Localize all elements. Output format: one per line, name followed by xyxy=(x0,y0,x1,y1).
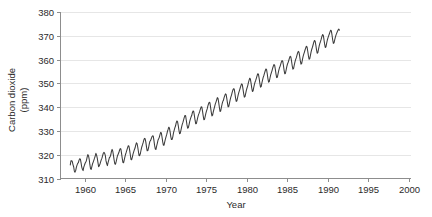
x-tick-label: 1970 xyxy=(156,184,177,195)
y-tick-label: 330 xyxy=(38,126,54,137)
y-tick-label: 320 xyxy=(38,150,54,161)
y-axis-title-line2: (ppm) xyxy=(18,88,29,113)
y-axis-title-line1: Carbon dioxide xyxy=(6,68,17,132)
y-axis-ticks xyxy=(57,13,61,180)
x-axis-title: Year xyxy=(226,199,245,210)
x-axis-ticks xyxy=(86,179,410,183)
x-tick-label: 1985 xyxy=(277,184,298,195)
co2-line-chart: 310320330340350360370380 196019651970197… xyxy=(0,0,432,217)
x-tick-label: 1990 xyxy=(318,184,339,195)
gridlines xyxy=(61,13,412,156)
y-tick-label: 360 xyxy=(38,55,54,66)
x-axis-tick-labels: 196019651970197519801985199019952000 xyxy=(75,184,420,195)
y-tick-label: 380 xyxy=(38,7,54,18)
y-tick-label: 370 xyxy=(38,31,54,42)
y-tick-label: 340 xyxy=(38,102,54,113)
x-tick-label: 1960 xyxy=(75,184,96,195)
co2-chart-figure: 310320330340350360370380 196019651970197… xyxy=(0,0,432,217)
x-tick-label: 1980 xyxy=(237,184,258,195)
co2-series-line xyxy=(70,29,339,172)
y-tick-label: 310 xyxy=(38,174,54,185)
y-tick-label: 350 xyxy=(38,78,54,89)
x-tick-label: 1995 xyxy=(358,184,379,195)
x-tick-label: 1975 xyxy=(196,184,217,195)
y-axis-tick-labels: 310320330340350360370380 xyxy=(38,7,54,185)
x-tick-label: 2000 xyxy=(399,184,420,195)
x-tick-label: 1965 xyxy=(115,184,136,195)
